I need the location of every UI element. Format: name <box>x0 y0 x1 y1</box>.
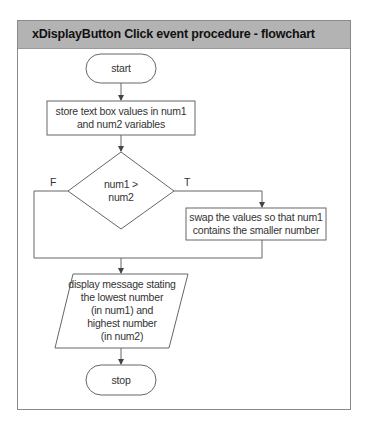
swap-label-line1: swap the values so that num1 <box>186 211 326 224</box>
display-line: the lowest number <box>66 291 178 304</box>
start-label: start <box>86 62 156 75</box>
swap-label-line2: contains the smaller number <box>186 224 326 237</box>
decision-label-line2: num2 <box>86 191 156 204</box>
display-line: highest number <box>66 317 178 330</box>
display-line: (in num2) <box>66 330 178 343</box>
false-label: F <box>50 176 56 188</box>
store-label: store text box values in num1 and num2 v… <box>50 105 192 131</box>
decision-label-line1: num1 > <box>86 178 156 191</box>
connector-true-branch <box>174 191 262 207</box>
swap-label: swap the values so that num1 contains th… <box>186 211 326 237</box>
display-line: display message stating <box>66 278 178 291</box>
true-label: T <box>184 176 191 188</box>
display-label: display message stating the lowest numbe… <box>66 278 178 343</box>
decision-label: num1 > num2 <box>86 178 156 204</box>
display-line: (in num1) and <box>66 304 178 317</box>
stop-label: stop <box>86 374 156 387</box>
